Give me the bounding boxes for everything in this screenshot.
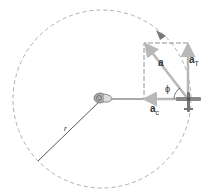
radius-line <box>38 99 102 161</box>
total-accel-label: a <box>158 58 164 68</box>
airplane-icon <box>176 92 201 112</box>
direction-arrow-icon <box>156 30 166 40</box>
radius-label: r <box>64 125 67 133</box>
centripetal-accel-label: ac <box>150 104 159 116</box>
tangential-subscript: T <box>195 60 199 67</box>
tangential-accel-label: aT <box>189 55 199 67</box>
diagram-canvas <box>0 0 205 196</box>
centripetal-subscript: c <box>156 109 160 116</box>
circular-motion-diagram: r a aT ac ϕ <box>0 0 205 196</box>
angle-label: ϕ <box>165 85 170 94</box>
center-pylon-icon <box>94 93 112 103</box>
